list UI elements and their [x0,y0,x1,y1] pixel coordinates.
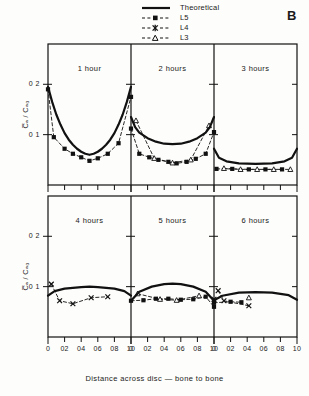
x-tick-label: 06 [174,345,188,352]
y-tick-label: 0 2 [22,80,40,87]
x-tick-label: 04 [240,345,254,352]
x-tick-label: 08 [107,345,121,352]
x-tick-label: 06 [91,345,105,352]
panel-title: 2 hours [131,64,214,73]
x-tick-label: 06 [257,345,271,352]
y-tick-label: 0 1 [22,283,40,290]
panel-title: 1 hour [48,64,131,73]
panel-title: 5 hours [131,216,214,225]
x-axis-caption: Distance across disc — bone to bone [0,374,309,383]
x-tick-label: 10 [290,345,304,352]
x-tick-label: 0 [124,345,138,352]
x-tick-label: 0 [207,345,221,352]
x-tick-label: 02 [58,345,72,352]
x-tick-label: 02 [141,345,155,352]
x-tick-label: 08 [190,345,204,352]
plot-area [0,0,309,396]
x-tick-label: 04 [74,345,88,352]
y-tick-label: 0 2 [22,232,40,239]
x-tick-label: 04 [157,345,171,352]
panel-title: 6 hours [214,216,297,225]
x-tick-label: 02 [224,345,238,352]
panel-title: 3 hours [214,64,297,73]
figure-b-container: Theoretical L5 L [0,0,309,396]
x-tick-label: 08 [273,345,287,352]
x-tick-label: 0 [41,345,55,352]
y-tick-label: 0 1 [22,131,40,138]
panel-title: 4 hours [48,216,131,225]
